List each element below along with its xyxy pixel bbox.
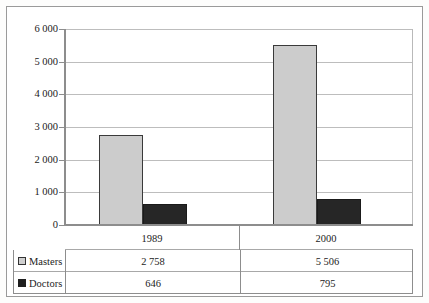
y-axis-labels: 6 0005 0004 0003 0002 0001 0000 <box>0 0 58 226</box>
chart-figure: 6 0005 0004 0003 0002 0001 0000 19892000… <box>0 0 429 303</box>
y-axis-tick <box>59 62 65 63</box>
bar-doctors-1989 <box>143 204 187 225</box>
gridline <box>65 94 412 95</box>
legend-item-masters: Masters <box>14 250 66 272</box>
table-cell: 795 <box>241 272 414 294</box>
y-axis-tick <box>59 225 65 226</box>
table-cell: 5 506 <box>241 250 414 272</box>
category-label-1989: 1989 <box>65 226 239 250</box>
category-axis-band: 19892000 <box>65 226 413 250</box>
y-axis-tick <box>59 29 65 30</box>
data-table: Masters 2 758 5 506 Doctors 646 795 <box>13 250 413 294</box>
y-axis-tick <box>59 192 65 193</box>
legend-item-doctors: Doctors <box>14 272 66 294</box>
bar-masters-1989 <box>99 135 143 225</box>
gridline <box>65 62 412 63</box>
category-label-2000: 2000 <box>239 226 413 250</box>
legend-label: Doctors <box>29 278 62 289</box>
y-axis-tick-label: 5 000 <box>0 57 58 67</box>
y-axis-tick-label: 4 000 <box>0 89 58 99</box>
y-axis-tick-label: 6 000 <box>0 24 58 34</box>
table-row: Masters 2 758 5 506 <box>14 250 412 272</box>
legend-label: Masters <box>29 256 62 267</box>
y-axis-tick <box>59 94 65 95</box>
y-axis-tick <box>59 127 65 128</box>
legend-swatch-icon <box>18 257 26 265</box>
table-row: Doctors 646 795 <box>14 272 412 294</box>
legend-swatch-icon <box>18 279 26 287</box>
y-axis-tick-label: 2 000 <box>0 155 58 165</box>
gridline <box>65 127 412 128</box>
y-axis-tick <box>59 160 65 161</box>
bar-doctors-2000 <box>317 199 361 225</box>
gridline <box>65 29 412 30</box>
bar-masters-2000 <box>273 45 317 225</box>
table-cell: 646 <box>66 272 241 294</box>
y-axis-tick-label: 0 <box>0 220 58 230</box>
y-axis-tick-label: 1 000 <box>0 187 58 197</box>
plot-area <box>65 29 413 225</box>
y-axis-tick-label: 3 000 <box>0 122 58 132</box>
table-cell: 2 758 <box>66 250 241 272</box>
